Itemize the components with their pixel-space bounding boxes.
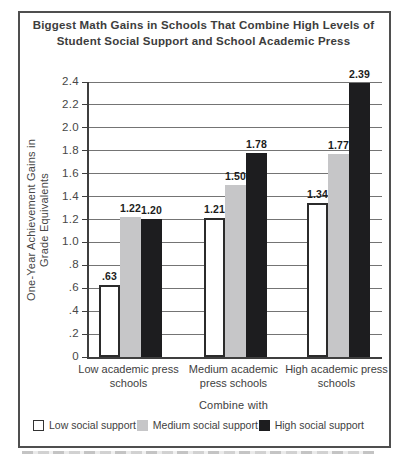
legend-swatch-medium-social-support — [137, 420, 148, 431]
bar-group-high-academic-press-schools: 1.341.772.39 — [307, 82, 370, 357]
y-tick-label: 2.4 — [35, 75, 79, 87]
cropped-caption-fragment — [22, 451, 374, 454]
bar-medium-social-support — [328, 154, 349, 357]
y-tick-label: 1.0 — [35, 235, 79, 247]
chart-title: Biggest Math Gains in Schools That Combi… — [26, 17, 381, 49]
y-tick-mark — [82, 82, 87, 83]
bar-high-social-support — [141, 219, 162, 357]
y-tick-mark — [82, 219, 87, 220]
y-tick-mark — [82, 288, 87, 289]
y-tick-label: 0 — [35, 350, 79, 362]
bar-high-social-support — [246, 153, 267, 357]
bar-medium-social-support — [225, 185, 246, 357]
legend-swatch-low-social-support — [33, 420, 44, 431]
bar-medium-social-support — [120, 217, 141, 357]
y-tick-mark — [82, 173, 87, 174]
y-tick-label: 2.0 — [35, 121, 79, 133]
y-tick-mark — [82, 196, 87, 197]
y-tick-label: 1.8 — [35, 144, 79, 156]
legend-label: High social support — [275, 419, 364, 431]
y-tick-label: 2.2 — [35, 98, 79, 110]
plot-area: 0.2.4.6.81.01.21.41.61.82.02.22.4.631.22… — [87, 82, 382, 359]
y-tick-mark — [82, 334, 87, 335]
y-tick-mark — [82, 104, 87, 105]
bar-group-low-academic-press-schools: .631.221.20 — [99, 82, 162, 357]
y-tick-label: 1.2 — [35, 213, 79, 225]
bar-group-medium-academic-press-schools: 1.211.501.78 — [204, 82, 267, 357]
bar-low-social-support — [204, 218, 225, 357]
y-tick-label: .4 — [35, 304, 79, 316]
legend-swatch-high-social-support — [259, 420, 270, 431]
bar-value-label: 1.20 — [132, 204, 172, 216]
chart-title-line1: Biggest Math Gains in Schools That Combi… — [26, 17, 381, 33]
bar-low-social-support — [307, 203, 328, 357]
legend-item-high-social-support: High social support — [259, 419, 364, 431]
y-tick-mark — [82, 150, 87, 151]
bar-value-label: 2.39 — [340, 68, 380, 80]
legend-label: Low social support — [49, 419, 136, 431]
legend-label: Medium social support — [153, 419, 258, 431]
y-tick-mark — [82, 265, 87, 266]
bar-chart-figure: Biggest Math Gains in Schools That Combi… — [0, 0, 403, 455]
x-category-label-high-academic-press-schools: High academic press schools — [282, 363, 392, 390]
legend-item-medium-social-support: Medium social support — [137, 419, 258, 431]
bar-high-social-support — [349, 83, 370, 357]
y-tick-mark — [82, 357, 87, 358]
x-axis-title: Combine with — [87, 399, 380, 411]
y-tick-label: .8 — [35, 258, 79, 270]
y-tick-mark — [82, 311, 87, 312]
y-tick-label: 1.4 — [35, 190, 79, 202]
x-category-label-medium-academic-press-schools: Medium academic press schools — [179, 363, 289, 390]
y-tick-label: 1.6 — [35, 167, 79, 179]
legend: Low social supportMedium social supportH… — [33, 419, 364, 431]
y-tick-label: .6 — [35, 281, 79, 293]
bar-value-label: 1.78 — [237, 138, 277, 150]
x-category-label-low-academic-press-schools: Low academic press schools — [74, 363, 184, 390]
y-tick-mark — [82, 242, 87, 243]
y-tick-label: .2 — [35, 327, 79, 339]
legend-item-low-social-support: Low social support — [33, 419, 136, 431]
y-tick-mark — [82, 127, 87, 128]
chart-title-line2: Student Social Support and School Academ… — [26, 33, 381, 49]
bar-low-social-support — [99, 285, 120, 357]
